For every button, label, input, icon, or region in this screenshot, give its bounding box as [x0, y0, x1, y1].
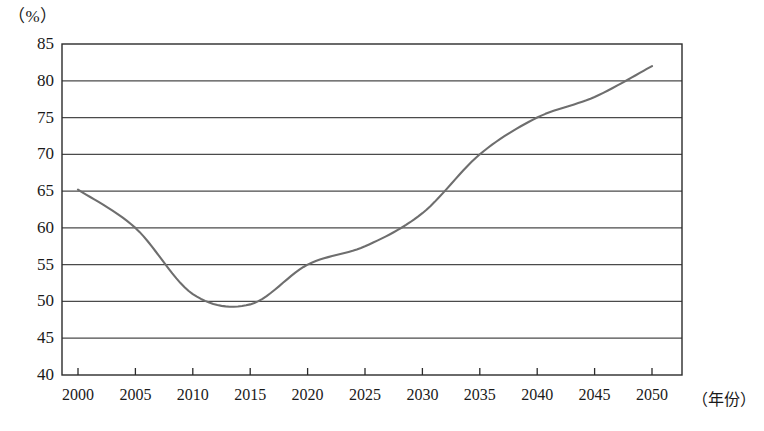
x-axis-ticks — [78, 368, 652, 375]
plot-area — [0, 0, 764, 431]
data-series-line — [78, 66, 652, 307]
plot-frame — [62, 44, 682, 375]
gridlines — [62, 81, 682, 338]
line-chart: （%） （年份） 85807570656055504540 2000200520… — [0, 0, 764, 431]
